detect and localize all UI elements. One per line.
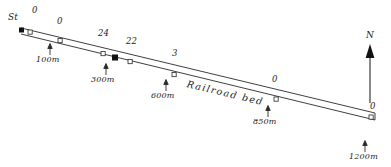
railroad-bed-lines bbox=[21, 28, 375, 120]
north-label: N bbox=[366, 31, 374, 40]
node-label-3: 3 bbox=[172, 49, 177, 58]
railroad-bed-survey-figure: St 0 0 24 22 3 0 0 100m 300m 600m 850m 1… bbox=[0, 0, 391, 167]
node-marker-5 bbox=[274, 97, 278, 101]
node-marker-3 bbox=[172, 73, 176, 77]
node-marker-24 bbox=[101, 52, 105, 56]
distance-label-600m: 600m bbox=[151, 92, 175, 100]
leader-100m bbox=[48, 44, 52, 56]
station-start-marker bbox=[19, 28, 24, 33]
north-arrow-icon bbox=[366, 44, 375, 103]
node-label-0b: 0 bbox=[57, 17, 62, 26]
railroad-bed-lower-rail bbox=[21, 34, 375, 120]
distance-label-850m: 850m bbox=[253, 118, 277, 126]
distance-label-100m: 100m bbox=[36, 56, 60, 64]
distance-leaders bbox=[48, 44, 367, 153]
bed-node-markers bbox=[28, 30, 373, 119]
leader-1200m bbox=[363, 141, 367, 153]
node-label-0c: 0 bbox=[272, 75, 277, 84]
leader-600m bbox=[164, 80, 168, 92]
node-marker-22 bbox=[128, 60, 132, 64]
node-label-0d: 0 bbox=[370, 102, 375, 111]
node-marker-end bbox=[369, 115, 373, 119]
node-marker-0 bbox=[58, 39, 62, 43]
distance-label-1200m: 1200m bbox=[349, 153, 378, 161]
leader-850m bbox=[266, 106, 270, 118]
station-label: St bbox=[8, 13, 18, 22]
node-label-22: 22 bbox=[126, 37, 137, 46]
node-label-24: 24 bbox=[98, 29, 109, 38]
marker-filled-24 bbox=[112, 55, 118, 61]
railroad-bed-upper-rail bbox=[21, 28, 375, 113]
node-label-0a: 0 bbox=[32, 6, 37, 15]
leader-300m bbox=[104, 64, 108, 76]
distance-label-300m: 300m bbox=[91, 76, 115, 84]
station-marker-open bbox=[28, 30, 32, 34]
